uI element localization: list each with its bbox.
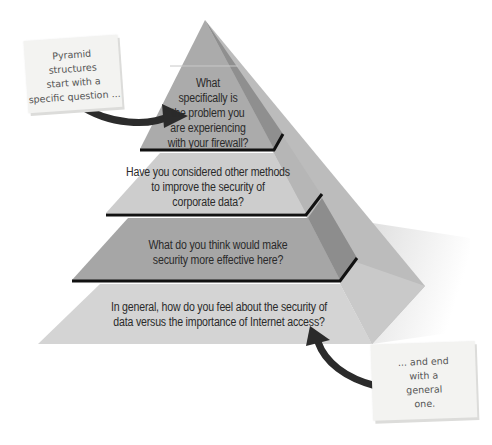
tier-1-line: are experiencing — [157, 121, 259, 136]
tier-4-line: In general, how do you feel about the se… — [100, 300, 338, 315]
tier-1-line: specifically is — [157, 91, 259, 106]
tier-2-line: Have you considered other methods — [122, 165, 294, 180]
pyramid-diagram: What specifically is the problem you are… — [0, 0, 492, 445]
tier-2-line: corporate data? — [122, 195, 294, 210]
tier-4-line: data versus the importance of Internet a… — [100, 315, 338, 330]
tier-1-line: with your firewall? — [157, 136, 259, 151]
tier-3-line: security more effective here? — [141, 253, 296, 268]
bottom-sticky-note: ... and end with a general one. — [371, 341, 478, 421]
tier-3-label: What do you think would make security mo… — [141, 238, 296, 268]
arrow-to-bottom-icon — [318, 342, 376, 386]
tier-1-label: What specifically is the problem you are… — [157, 76, 259, 151]
tier-3-line: What do you think would make — [141, 238, 296, 253]
top-sticky-note: Pyramid structures start with a specific… — [24, 35, 123, 113]
tier-4-label: In general, how do you feel about the se… — [100, 300, 338, 330]
tier-1-line: the problem you — [157, 106, 259, 121]
tier-2-line: to improve the security of — [122, 180, 294, 195]
tier-2-label: Have you considered other methods to imp… — [122, 165, 294, 210]
bottom-note-line: one. — [373, 395, 477, 413]
tier-1-line: What — [157, 76, 259, 91]
